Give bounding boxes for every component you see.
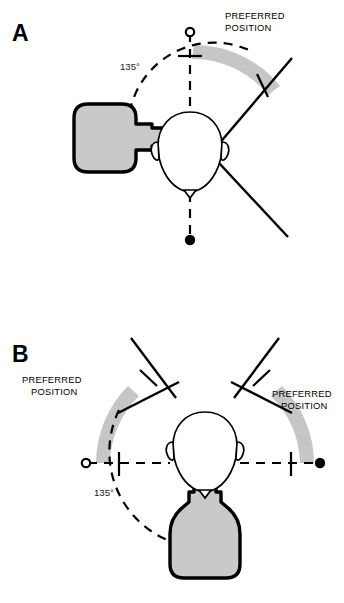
wedge-lower-line [219, 163, 288, 237]
head-outline [158, 112, 222, 192]
panel-b-letter: B [12, 343, 29, 366]
wedge-left-upper-line [131, 338, 176, 398]
panel-b: B [0, 300, 344, 580]
posterior-reference-filled-circle [185, 235, 195, 245]
head-top-view [151, 112, 229, 198]
right-reference-filled-circle [315, 458, 325, 468]
preferred-position-right-label-line2: POSITION [281, 400, 327, 411]
angle-label-a: 135° [120, 61, 140, 72]
figure-caption [16, 594, 328, 603]
panel-a-diagram: PREFERRED POSITION 135° [0, 0, 344, 290]
feeding-bottle-horizontal [74, 104, 168, 172]
preferred-position-left-label-line2: POSITION [31, 386, 77, 397]
panel-a-letter: A [12, 22, 29, 45]
panel-b-diagram: PREFERRED POSITION PREFERRED POSITION 13… [0, 300, 344, 590]
anterior-reference-open-circle [186, 28, 194, 36]
preferred-position-arc-band-left [96, 386, 139, 463]
preferred-position-label-line1: PREFERRED [225, 10, 285, 21]
head-outline [173, 412, 237, 492]
figure-root: A [0, 0, 344, 603]
preferred-position-left-label-line1: PREFERRED [22, 374, 82, 385]
bottle-body [74, 104, 168, 172]
right-ear [221, 142, 229, 160]
head-top-view [166, 412, 244, 498]
left-ear [166, 442, 174, 460]
wedge-left-tick [140, 370, 157, 386]
left-reference-open-circle [82, 459, 90, 467]
right-ear [236, 442, 244, 460]
preferred-position-right-label-line1: PREFERRED [272, 388, 332, 399]
angle-label-b: 135° [94, 487, 114, 498]
nose [184, 190, 196, 198]
preferred-position-label-line2: POSITION [225, 22, 271, 33]
angle-dashed-arc [109, 410, 175, 543]
panel-a: A [0, 0, 344, 290]
wedge-right-tick [253, 370, 270, 386]
left-ear [151, 142, 159, 160]
